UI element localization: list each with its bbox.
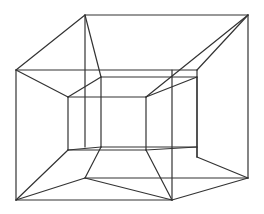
edge-line xyxy=(197,15,248,70)
edge-line xyxy=(172,178,248,200)
edge-line xyxy=(16,70,68,97)
edge-line xyxy=(85,15,101,77)
edge-line xyxy=(85,147,101,178)
edge-line xyxy=(85,178,172,200)
tesseract-diagram xyxy=(0,0,264,214)
edge-line xyxy=(16,150,68,200)
edge-line xyxy=(197,157,248,178)
tesseract-wireframe xyxy=(0,0,264,214)
edge-line xyxy=(16,178,85,200)
edge-line xyxy=(146,150,172,200)
edge-line xyxy=(16,15,85,70)
